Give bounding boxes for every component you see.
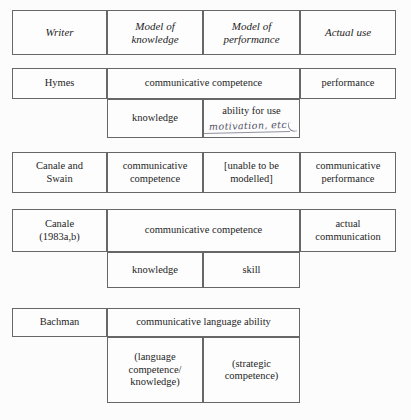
row-writer-canale-1983: Canale (1983a,b) <box>12 209 107 252</box>
subcell-label: ability for use <box>222 105 280 117</box>
row-writer-label: Bachman <box>40 316 80 328</box>
header-cell-model-of-knowledge: Model of knowledge <box>107 10 203 55</box>
row-writer-hymes: Hymes <box>12 68 107 99</box>
header-label-writer: Writer <box>45 26 73 39</box>
subcell-canale-knowledge: knowledge <box>107 252 203 288</box>
row-span-canale-communicative-competence: communicative competence <box>107 209 300 252</box>
subcell-canale-skill: skill <box>203 252 300 288</box>
row-actual-use-label: communicative performance <box>316 160 381 185</box>
row-span-label: communicative competence <box>145 224 263 236</box>
row-span-label: communicative language ability <box>136 316 271 328</box>
row-actual-use-label: actual communication <box>315 218 380 243</box>
header-cell-model-of-performance: Model of performance <box>203 10 300 55</box>
subcell-label: skill <box>242 264 260 276</box>
row-writer-canale-and-swain: Canale and Swain <box>12 152 107 193</box>
row-knowledge-label: communicative competence <box>123 160 188 185</box>
row-actual-use-hymes: performance <box>300 68 396 99</box>
row-writer-label: Canale (1983a,b) <box>39 218 80 243</box>
header-label-actual-use: Actual use <box>325 26 371 39</box>
row-writer-bachman: Bachman <box>12 308 107 337</box>
subcell-bachman-language-competence: (language competence/ knowledge) <box>107 337 203 403</box>
row-actual-use-canale-1983: actual communication <box>300 209 396 252</box>
subcell-label: knowledge <box>132 112 178 124</box>
row-performance-canale-and-swain: [unable to be modelled] <box>203 152 300 193</box>
row-writer-label: Canale and Swain <box>36 160 83 185</box>
row-span-label: communicative competence <box>145 77 263 89</box>
row-span-bachman-communicative-language-ability: communicative language ability <box>107 308 300 337</box>
row-span-hymes-communicative-competence: communicative competence <box>107 68 300 99</box>
row-knowledge-canale-and-swain: communicative competence <box>107 152 203 193</box>
subcell-label: (language competence/ knowledge) <box>128 351 181 388</box>
row-actual-use-canale-and-swain: communicative performance <box>300 152 396 193</box>
subcell-hymes-knowledge: knowledge <box>107 99 203 138</box>
header-cell-actual-use: Actual use <box>300 10 396 55</box>
comparison-table-figure: Writer Model of knowledge Model of perfo… <box>0 0 411 420</box>
row-actual-use-label: performance <box>321 77 374 89</box>
subcell-label: knowledge <box>132 264 178 276</box>
subcell-label: (strategic competence) <box>225 358 279 383</box>
handwritten-annotation-motivation: motivation, etc <box>209 119 287 132</box>
header-label-model-of-knowledge: Model of knowledge <box>131 20 178 46</box>
row-writer-label: Hymes <box>45 77 75 89</box>
subcell-bachman-strategic-competence: (strategic competence) <box>203 337 300 403</box>
row-performance-label: [unable to be modelled] <box>224 160 279 185</box>
header-cell-writer: Writer <box>12 10 107 55</box>
header-label-model-of-performance: Model of performance <box>223 20 279 46</box>
